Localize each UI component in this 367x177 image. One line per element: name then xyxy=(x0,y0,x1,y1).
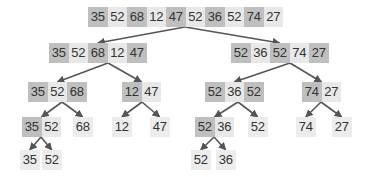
array-node-n16: 52 xyxy=(42,150,62,170)
array-node-n14: 27 xyxy=(332,117,352,137)
array-node-n11: 5236 xyxy=(195,117,234,137)
array-cell: 35 xyxy=(22,117,42,137)
array-node-n8: 68 xyxy=(73,117,93,137)
array-node-n3: 355268 xyxy=(28,82,87,102)
edge-n3-n7 xyxy=(42,102,63,117)
array-cell: 52 xyxy=(42,150,62,170)
array-cell: 74 xyxy=(302,82,322,102)
array-cell: 12 xyxy=(112,117,132,137)
edge-n11-n18 xyxy=(214,137,226,150)
array-node-n12: 52 xyxy=(248,117,268,137)
array-node-n6: 7427 xyxy=(302,82,341,102)
array-cell: 27 xyxy=(322,82,342,102)
array-cell: 35 xyxy=(49,43,69,63)
array-cell: 36 xyxy=(205,7,225,27)
array-cell: 35 xyxy=(28,82,48,102)
array-node-n0: 35526812475236527427 xyxy=(88,7,283,27)
array-cell: 47 xyxy=(166,7,186,27)
edge-n5-n11 xyxy=(215,102,239,117)
array-node-n17: 52 xyxy=(191,150,211,170)
array-cell: 52 xyxy=(248,117,268,137)
edge-n1-n3 xyxy=(57,63,108,82)
edge-n4-n9 xyxy=(122,102,142,117)
array-node-n9: 12 xyxy=(112,117,132,137)
edge-n7-n16 xyxy=(41,137,52,150)
array-cell: 36 xyxy=(251,43,271,63)
array-cell: 52 xyxy=(108,7,128,27)
array-cell: 68 xyxy=(88,43,108,63)
array-cell: 27 xyxy=(264,7,284,27)
array-cell: 52 xyxy=(270,43,290,63)
array-cell: 68 xyxy=(67,82,87,102)
edge-n0-n2 xyxy=(185,27,280,43)
edge-n2-n5 xyxy=(234,63,290,82)
array-cell: 36 xyxy=(216,150,236,170)
array-cell: 52 xyxy=(244,82,264,102)
array-node-n4: 1247 xyxy=(122,82,161,102)
array-cell: 36 xyxy=(225,82,245,102)
array-cell: 52 xyxy=(225,7,245,27)
array-cell: 27 xyxy=(332,117,352,137)
array-cell: 52 xyxy=(42,117,62,137)
array-cell: 68 xyxy=(127,7,147,27)
array-cell: 35 xyxy=(20,150,40,170)
array-cell: 47 xyxy=(142,82,162,102)
array-cell: 52 xyxy=(191,150,211,170)
array-node-n10: 47 xyxy=(150,117,170,137)
array-cell: 68 xyxy=(73,117,93,137)
edge-n3-n8 xyxy=(62,102,83,117)
edge-n1-n4 xyxy=(108,63,142,82)
array-cell: 12 xyxy=(108,43,128,63)
edge-n5-n12 xyxy=(238,102,258,117)
array-cell: 52 xyxy=(205,82,225,102)
merge-sort-diagram: 3552681247523652742735526812475236527427… xyxy=(0,0,367,177)
array-cell: 74 xyxy=(290,43,310,63)
array-cell: 12 xyxy=(147,7,167,27)
array-node-n1: 3552681247 xyxy=(49,43,147,63)
edge-n6-n13 xyxy=(306,102,321,117)
array-node-n7: 3552 xyxy=(22,117,61,137)
array-node-n5: 523652 xyxy=(205,82,264,102)
array-cell: 74 xyxy=(244,7,264,27)
array-cell: 52 xyxy=(48,82,68,102)
edge-n6-n14 xyxy=(321,102,342,117)
edge-n2-n6 xyxy=(290,63,322,82)
array-cell: 74 xyxy=(296,117,316,137)
edge-n4-n10 xyxy=(142,102,160,117)
edge-n11-n17 xyxy=(201,137,214,150)
array-cell: 36 xyxy=(215,117,235,137)
array-node-n18: 36 xyxy=(216,150,236,170)
array-cell: 35 xyxy=(88,7,108,27)
edge-n0-n1 xyxy=(98,27,185,43)
array-cell: 52 xyxy=(69,43,89,63)
array-cell: 47 xyxy=(150,117,170,137)
array-node-n2: 5236527427 xyxy=(231,43,329,63)
array-cell: 47 xyxy=(127,43,147,63)
array-cell: 12 xyxy=(122,82,142,102)
array-node-n13: 74 xyxy=(296,117,316,137)
array-cell: 52 xyxy=(231,43,251,63)
array-cell: 27 xyxy=(309,43,329,63)
array-node-n15: 35 xyxy=(20,150,40,170)
edge-n7-n15 xyxy=(30,137,41,150)
array-cell: 52 xyxy=(195,117,215,137)
array-cell: 52 xyxy=(186,7,206,27)
